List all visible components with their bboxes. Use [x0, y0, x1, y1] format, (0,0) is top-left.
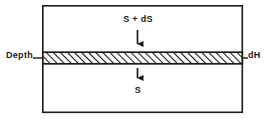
flux-in-label: S + dS [115, 15, 161, 24]
depth-axis-label: Depth [6, 51, 33, 60]
hatched-layer [43, 52, 243, 64]
flux-out-label: S [115, 86, 161, 95]
diagram-canvas: Depth dH S + dS S [0, 0, 275, 119]
layer-thickness-label: dH [248, 51, 261, 60]
hatched-layer-fill [43, 52, 243, 64]
